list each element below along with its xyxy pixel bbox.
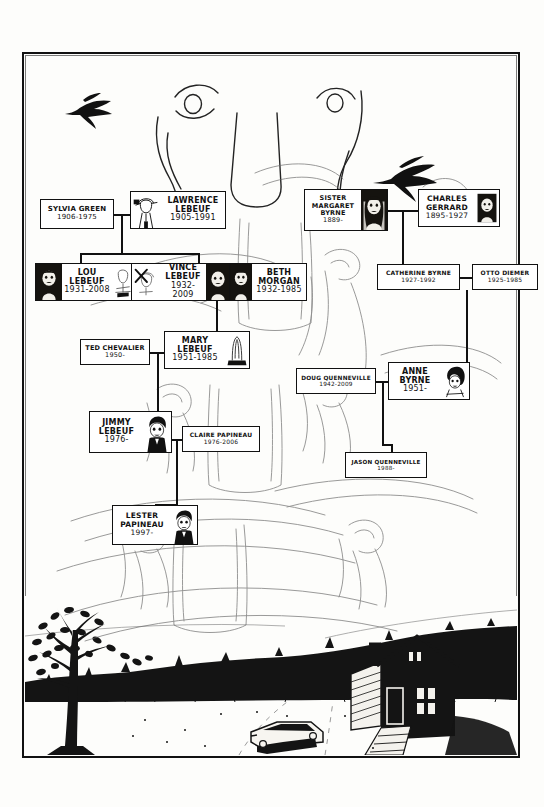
connector-catherine-otto-down — [466, 290, 468, 368]
portrait-anne-byrne — [441, 363, 469, 399]
node-sylvia-green[interactable]: SYLVIA GREEN 1906-1975 — [40, 199, 114, 229]
portrait-beth-morgan — [230, 264, 252, 300]
portrait-lou-lebeuf — [36, 264, 62, 300]
node-dates: 1927-1992 — [380, 277, 457, 284]
node-charles-gerrard[interactable]: CHARLES GERRARD 1895-1927 — [418, 189, 500, 227]
portrait-vince-lebeuf-crossed — [132, 264, 160, 300]
node-dates: 1932-1985 — [254, 286, 304, 295]
node-doug-quenneville[interactable]: DOUG QUENNEVILLE 1942-2009 — [296, 368, 376, 394]
node-dates: 1905-1991 — [163, 214, 223, 223]
connector-doug-anne-down — [382, 381, 384, 445]
connector-sibling-bar-lebeuf — [80, 253, 200, 255]
node-dates: 1997- — [115, 529, 169, 537]
connector-catherine-otto — [460, 277, 472, 279]
connector-jimmy-claire-down — [176, 439, 178, 505]
node-sister-margaret-byrne[interactable]: SISTER MARGARET BYRNE 1889- — [304, 189, 388, 231]
node-otto-diemer[interactable]: OTTO DIEMER 1925-1985 — [472, 264, 538, 290]
node-ted-chevalier[interactable]: TED CHEVALIER 1950- — [80, 339, 150, 365]
portrait-vince-lebeuf — [206, 264, 230, 300]
node-dates: 1931-2008 — [64, 286, 110, 295]
node-lester-papineau[interactable]: LESTER PAPINEAU 1997- — [112, 505, 198, 545]
node-dates: 1988- — [348, 465, 424, 471]
node-vince-lebeuf[interactable]: VINCE LEBEUF 1932-2009 — [131, 263, 231, 301]
node-mary-lebeuf[interactable]: MARY LEBEUF 1951-1985 — [164, 331, 250, 369]
portrait-lester-papineau — [171, 506, 197, 544]
node-catherine-byrne[interactable]: CATHERINE BYRNE 1927-1992 — [377, 264, 460, 290]
node-dates: 1932-2009 — [162, 282, 204, 300]
node-dates: 1976-2006 — [185, 439, 257, 446]
connector-lawrence-down — [121, 214, 123, 254]
node-jason-quenneville[interactable]: JASON QUENNEVILLE 1988- — [345, 452, 427, 478]
node-dates: 1951-1985 — [167, 354, 223, 363]
node-lou-lebeuf[interactable]: LOU LEBEUF 1931-2008 — [35, 263, 135, 301]
connector-ted-mary-down — [157, 352, 159, 414]
node-jimmy-lebeuf[interactable]: JIMMY LEBEUF 1976- — [89, 411, 172, 453]
node-beth-morgan[interactable]: BETH MORGAN 1932-1985 — [229, 263, 307, 301]
portrait-mary-lebeuf-gravestone — [225, 332, 249, 368]
node-dates: 1906-1975 — [43, 214, 111, 222]
node-claire-papineau[interactable]: CLAIRE PAPINEAU 1976-2006 — [182, 426, 260, 452]
node-dates: 1925-1985 — [475, 277, 535, 284]
node-dates: 1950- — [83, 352, 147, 359]
node-dates: 1889- — [307, 217, 359, 224]
portrait-lawrence-lebeuf — [131, 192, 161, 228]
node-dates: 1942-2009 — [299, 381, 373, 387]
node-dates: 1895-1927 — [421, 212, 473, 220]
node-lawrence-lebeuf[interactable]: LAWRENCE LEBEUF 1905-1991 — [130, 191, 226, 229]
node-dates: 1951- — [391, 385, 439, 394]
node-anne-byrne[interactable]: ANNE BYRNE 1951- — [388, 362, 470, 400]
portrait-charles-gerrard — [475, 190, 499, 226]
portrait-jimmy-lebeuf — [143, 412, 171, 452]
connector-margaret-charles-down — [402, 210, 404, 268]
node-dates: 1976- — [92, 436, 141, 445]
node-name-line1: SISTER MARGARET — [307, 195, 359, 210]
portrait-sister-margaret-byrne — [361, 190, 387, 230]
